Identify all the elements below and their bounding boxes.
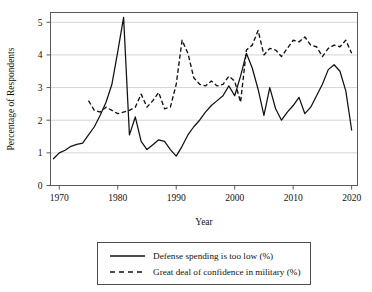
- x-tick-label: 2020: [342, 193, 361, 203]
- legend-label-defense-spending: Defense spending is too low (%): [153, 251, 273, 261]
- legend: Defense spending is too low (%) Great de…: [98, 243, 311, 285]
- y-axis-title: Percentage of Respondents: [6, 47, 16, 150]
- line-chart: 012345 197019801990200020102020 Year Per…: [0, 0, 372, 292]
- y-tick-label: 5: [38, 18, 43, 28]
- x-tick-label: 2000: [225, 193, 244, 203]
- legend-label-confidence-military: Great deal of confidence in military (%): [153, 267, 300, 277]
- x-tick-label: 1970: [50, 193, 69, 203]
- legend-box: [98, 243, 311, 285]
- y-tick-label: 1: [38, 148, 43, 158]
- y-tick-label: 2: [38, 116, 43, 126]
- y-tick-label: 4: [38, 50, 43, 60]
- chart-figure: 012345 197019801990200020102020 Year Per…: [0, 0, 372, 292]
- x-tick-label: 1980: [108, 193, 127, 203]
- x-tick-label: 1990: [167, 193, 186, 203]
- x-axis-title: Year: [195, 217, 213, 227]
- y-tick-label: 0: [38, 181, 43, 191]
- x-tick-label: 2010: [284, 193, 303, 203]
- y-tick-label: 3: [38, 83, 43, 93]
